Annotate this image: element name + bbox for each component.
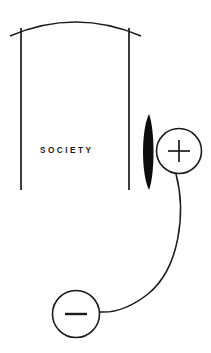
- arch-canopy-path: [10, 22, 141, 36]
- diagram-canvas: SOCIETY: [0, 0, 211, 353]
- society-label: SOCIETY: [40, 146, 93, 155]
- diagram-illustration: SOCIETY: [0, 0, 211, 353]
- lens-shape: [143, 114, 154, 190]
- connector-curve: [100, 174, 180, 312]
